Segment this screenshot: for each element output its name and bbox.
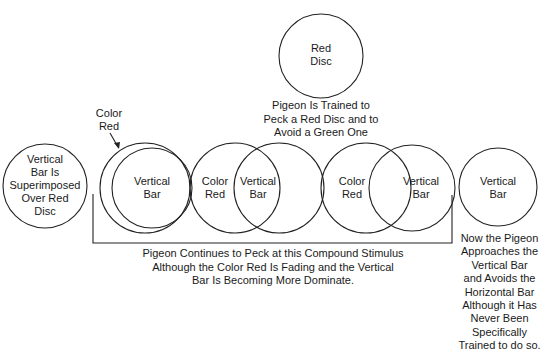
bracket-line [93,194,452,243]
stage3-left-label: Color Red [195,175,235,201]
stage1-label: Vertical Bar Is Superimposed Over Red Di… [3,153,87,218]
pointer-arrowhead-icon [114,142,120,149]
final-caption: Now the Pigeon Approaches the Vertical B… [452,232,547,353]
top-caption: Pigeon Is Trained to Peck a Red Disc and… [241,99,401,140]
stage4-right-label: Vertical Bar [393,175,449,201]
stage5-label: Vertical Bar [470,175,526,201]
bracket-caption: Pigeon Continues to Peck at this Compoun… [120,247,426,288]
red-disc-label: Red Disc [291,42,351,68]
stage3-right-label: Vertical Bar [232,175,284,201]
stage2-inner-label: Vertical Bar [124,175,180,201]
stage2-pointer-label: Color Red [86,107,132,133]
stage4-left-label: Color Red [327,175,377,201]
